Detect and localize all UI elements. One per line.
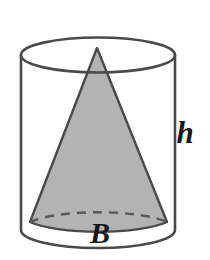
cone-in-cylinder-diagram: h B: [0, 0, 210, 260]
height-label-h: h: [176, 115, 193, 150]
geometry-figure-canvas: h B: [0, 0, 210, 260]
base-label-B: B: [89, 216, 110, 249]
